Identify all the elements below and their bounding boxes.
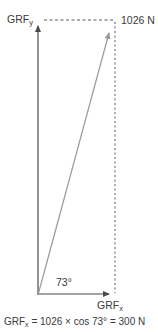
resultant-magnitude-label: 1026 N — [121, 14, 155, 26]
angle-label: 73° — [56, 276, 72, 288]
caption-grf-base: GRF — [4, 316, 25, 327]
resultant-grf-vector-arrow — [38, 33, 109, 295]
caption-equation-text: = 1026 × cos 73° = 300 N — [29, 316, 146, 327]
grf-y-axis-label: GRFy — [7, 13, 33, 25]
grf-y-subscript: y — [29, 18, 33, 27]
grf-x-axis-label: GRFx — [97, 299, 123, 311]
grf-y-base: GRF — [7, 13, 29, 25]
grf-x-base: GRF — [97, 299, 119, 311]
caption-equation: GRFx = 1026 × cos 73° = 300 N — [4, 316, 145, 328]
grf-x-subscript: x — [119, 304, 123, 313]
grf-vector-diagram: GRFy 1026 N 73° GRFx GRFx = 1026 × cos 7… — [0, 0, 158, 332]
vector-diagram-canvas — [0, 0, 158, 332]
